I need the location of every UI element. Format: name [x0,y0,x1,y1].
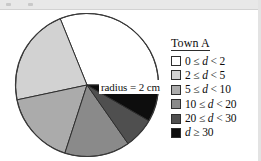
legend-item: 5 ≤ d < 10 [171,83,259,97]
legend-item-label: 10 ≤ d < 20 [185,98,236,111]
legend: Town A 0 ≤ d < 22 ≤ d < 55 ≤ d < 1010 ≤ … [171,33,259,140]
legend-item: 0 ≤ d < 2 [171,54,259,68]
scan-artifact-mark [6,3,11,6]
legend-item-label: 20 ≤ d < 30 [185,112,236,125]
radius-annotation-label: radius = 2 cm [99,80,162,94]
legend-item: 20 ≤ d < 30 [171,112,259,126]
scan-artifact-mark [28,3,33,6]
legend-item: d ≥ 30 [171,126,259,140]
legend-color-swatch [171,56,181,66]
legend-color-swatch [171,128,181,138]
legend-title: Town A [171,37,210,51]
legend-color-swatch [171,99,181,109]
pie-chart: radius = 2 cm [13,11,161,159]
figure-page: radius = 2 cm Town A 0 ≤ d < 22 ≤ d < 55… [0,0,261,161]
scan-artifact-band [0,0,261,10]
legend-color-swatch [171,85,181,95]
legend-item-label: d ≥ 30 [185,126,213,139]
legend-item: 10 ≤ d < 20 [171,97,259,111]
legend-color-swatch [171,114,181,124]
legend-item-label: 2 ≤ d < 5 [185,69,225,82]
legend-item-label: 5 ≤ d < 10 [185,83,231,96]
legend-color-swatch [171,70,181,80]
legend-item-label: 0 ≤ d < 2 [185,55,225,68]
legend-item-list: 0 ≤ d < 22 ≤ d < 55 ≤ d < 1010 ≤ d < 202… [171,54,259,140]
legend-item: 2 ≤ d < 5 [171,68,259,82]
